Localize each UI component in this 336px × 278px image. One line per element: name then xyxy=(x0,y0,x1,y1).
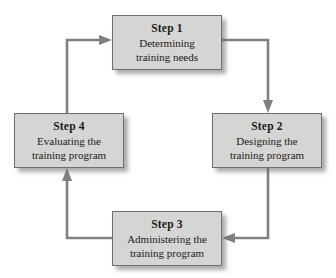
step-2-description-line-1: Designing the xyxy=(230,135,304,149)
training-process-cycle-diagram: Step 1 Determining training needs Step 2… xyxy=(0,0,336,278)
step-1-description: Determining training needs xyxy=(132,37,202,64)
step-4-box: Step 4 Evaluating the training program xyxy=(14,113,124,168)
step-1-box: Step 1 Determining training needs xyxy=(112,15,222,70)
step-4-description-line-1: Evaluating the xyxy=(32,135,106,149)
step-1-description-line-2: training needs xyxy=(136,51,198,65)
arrow-step1-to-step2 xyxy=(222,40,273,113)
step-1-title: Step 1 xyxy=(151,21,183,35)
step-3-description: Administering the training program xyxy=(123,233,211,260)
step-4-description: Evaluating the training program xyxy=(28,135,110,162)
arrow-step3-to-step4 xyxy=(62,168,112,238)
step-2-description: Designing the training program xyxy=(226,135,308,162)
step-3-description-line-2: training program xyxy=(127,247,207,261)
step-2-description-line-2: training program xyxy=(230,149,304,163)
step-4-description-line-2: training program xyxy=(32,149,106,163)
arrow-step2-to-step3 xyxy=(222,168,268,243)
step-3-box: Step 3 Administering the training progra… xyxy=(112,211,222,266)
step-4-title: Step 4 xyxy=(53,119,85,133)
step-3-title: Step 3 xyxy=(151,217,183,231)
step-2-box: Step 2 Designing the training program xyxy=(212,113,322,168)
arrow-step4-to-step1 xyxy=(67,35,112,113)
step-2-title: Step 2 xyxy=(251,119,283,133)
step-3-description-line-1: Administering the xyxy=(127,233,207,247)
step-1-description-line-1: Determining xyxy=(136,37,198,51)
